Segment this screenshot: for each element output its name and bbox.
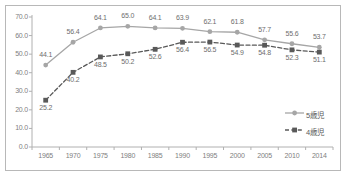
data-point-marker [43,98,48,103]
data-point-marker [207,29,212,34]
y-axis-tick-label: 60.0 [6,32,28,39]
data-point-label: 55.6 [279,30,305,37]
x-axis-tick-label: 1965 [31,152,61,159]
x-axis-tick-label: 2014 [304,152,334,159]
x-axis-tick-label: 1970 [58,152,88,159]
legend-group [285,111,304,133]
data-point-marker [317,45,322,50]
data-point-label: 50.2 [115,58,141,65]
y-axis-tick-label: 50.0 [6,50,28,57]
data-point-marker [98,55,103,60]
data-point-label: 54.9 [224,49,250,56]
data-point-label: 56.4 [170,46,196,53]
data-point-label: 61.8 [224,18,250,25]
data-point-label: 65.0 [115,12,141,19]
data-point-label: 52.3 [279,54,305,61]
data-point-label: 40.2 [60,76,86,83]
x-axis-tick-label: 1975 [85,152,115,159]
x-axis-tick-label: 1985 [140,152,170,159]
data-point-marker [71,70,76,75]
x-axis-tick-label: 1980 [113,152,143,159]
y-axis-tick-label: 40.0 [6,69,28,76]
data-point-marker [317,50,322,55]
data-point-label: 64.1 [142,14,168,21]
data-point-marker [290,47,295,52]
data-point-marker [235,43,240,48]
data-point-marker [262,37,267,42]
data-point-marker [262,43,267,48]
y-axis-tick-label: 20.0 [6,106,28,113]
data-point-marker [71,40,76,45]
y-axis-tick-label: 10.0 [6,124,28,131]
x-axis-tick-label: 1995 [195,152,225,159]
y-axis-tick-label: 70.0 [6,13,28,20]
data-point-marker [180,40,185,45]
data-point-label: 53.7 [306,33,332,40]
data-point-label: 62.1 [197,18,223,25]
x-axis-tick-label: 2005 [250,152,280,159]
x-axis-tick-label: 1990 [168,152,198,159]
data-point-marker [290,41,295,46]
data-point-label: 56.4 [60,28,86,35]
data-point-label: 57.7 [252,26,278,33]
data-point-marker [235,30,240,35]
legend-marker-series-0 [292,111,297,116]
x-axis-tick-label: 2010 [277,152,307,159]
data-point-marker [153,47,158,52]
x-axis-tick-label: 2000 [222,152,252,159]
legend-marker-series-1 [292,128,297,133]
data-point-marker [43,63,48,68]
data-point-label: 64.1 [87,14,113,21]
data-point-label: 51.1 [306,56,332,63]
data-point-label: 63.9 [170,14,196,21]
data-point-label: 54.8 [252,49,278,56]
legend-label-series-0: 5歳児 [306,109,324,120]
data-point-marker [125,51,130,56]
data-point-label: 56.5 [197,46,223,53]
data-point-label: 44.1 [33,51,59,58]
data-point-marker [153,26,158,31]
data-point-marker [98,26,103,31]
data-point-marker [180,26,185,31]
data-point-label: 25.2 [33,104,59,111]
data-point-label: 48.5 [87,61,113,68]
data-point-label: 52.6 [142,53,168,60]
legend-label-series-1: 4歳児 [306,126,324,137]
chart-container: 0.010.020.030.040.050.060.070.0 19651970… [0,0,349,181]
data-point-marker [207,40,212,45]
y-axis-tick-label: 30.0 [6,87,28,94]
data-point-marker [125,24,130,29]
y-axis-tick-label: 0.0 [6,143,28,150]
